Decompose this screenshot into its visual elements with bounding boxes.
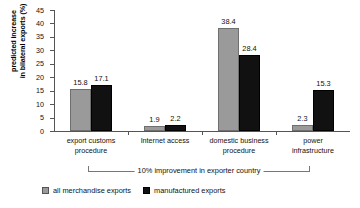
- black-swatch-icon: [143, 187, 150, 194]
- legend: all merchandise exports manufactured exp…: [42, 186, 238, 195]
- y-tick-40: [50, 23, 54, 24]
- bar-0-0: [70, 89, 91, 131]
- value-label-0-2: 38.4: [215, 18, 243, 26]
- gray-swatch-icon: [42, 187, 49, 194]
- y-tick-5: [50, 118, 54, 119]
- annotation-bracket: 10% improvement in exporter country: [88, 166, 310, 176]
- bracket-end-right: [309, 166, 310, 172]
- y-tick-30: [50, 50, 54, 51]
- category-label-2-line-0: domestic business: [202, 136, 276, 146]
- y-tick-25: [50, 64, 54, 65]
- y-tick-label-15: 15: [36, 87, 44, 94]
- category-label-0-line-0: export customs: [54, 136, 128, 146]
- value-label-1-1: 2.2: [162, 115, 190, 123]
- y-tick-label-5: 5: [40, 114, 44, 121]
- y-tick-label-35: 35: [36, 33, 44, 40]
- bar-0-1: [144, 126, 165, 131]
- y-tick-label-30: 30: [36, 47, 44, 54]
- value-label-1-0: 17.1: [88, 75, 116, 83]
- y-tick-label-10: 10: [36, 101, 44, 108]
- value-label-0-3: 2.3: [289, 115, 317, 123]
- y-tick-label-20: 20: [36, 74, 44, 81]
- y-tick-15: [50, 91, 54, 92]
- bracket-label: 10% improvement in exporter country: [135, 166, 264, 175]
- bar-0-2: [218, 28, 239, 131]
- legend-item-all-merchandise-exports: all merchandise exports: [42, 186, 131, 195]
- category-label-3-line-0: power: [276, 136, 350, 146]
- legend-label-1: manufactured exports: [154, 186, 225, 195]
- chart-figure: predicted increase in bilateral exports …: [0, 0, 360, 208]
- category-label-2-line-1: procedure: [202, 146, 276, 156]
- y-tick-0: [50, 131, 54, 132]
- x-tick-3: [276, 131, 277, 135]
- bar-1-2: [239, 55, 260, 131]
- bar-1-1: [165, 125, 186, 131]
- value-label-1-3: 15.3: [310, 80, 338, 88]
- y-tick-label-45: 45: [36, 7, 44, 14]
- category-label-3-line-1: infrastructure: [276, 146, 350, 156]
- y-axis-tick-labels: 051015202530354045: [0, 10, 52, 131]
- category-label-0-line-1: procedure: [54, 146, 128, 156]
- bar-1-3: [313, 90, 334, 131]
- y-tick-label-0: 0: [40, 128, 44, 135]
- y-tick-label-40: 40: [36, 20, 44, 27]
- legend-item-manufactured-exports: manufactured exports: [143, 186, 225, 195]
- category-label-0: export customsprocedure: [54, 136, 128, 155]
- x-tick-2: [202, 131, 203, 135]
- category-label-1-line-0: Internet access: [128, 136, 202, 146]
- y-tick-35: [50, 37, 54, 38]
- category-label-1: Internet access: [128, 136, 202, 146]
- y-tick-10: [50, 104, 54, 105]
- x-tick-1: [128, 131, 129, 135]
- category-label-3: powerinfrastructure: [276, 136, 350, 155]
- y-tick-20: [50, 77, 54, 78]
- y-tick-label-25: 25: [36, 60, 44, 67]
- bar-1-0: [91, 85, 112, 131]
- category-label-2: domestic businessprocedure: [202, 136, 276, 155]
- y-tick-45: [50, 10, 54, 11]
- legend-label-0: all merchandise exports: [53, 186, 131, 195]
- bracket-end-left: [88, 166, 89, 172]
- y-axis-line: [54, 10, 55, 131]
- bar-0-3: [292, 125, 313, 131]
- value-label-1-2: 28.4: [236, 45, 264, 53]
- plot-area: 15.817.11.92.238.428.42.315.3: [54, 10, 350, 131]
